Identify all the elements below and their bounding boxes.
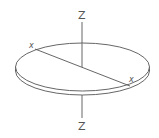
x-axis-left-label: x bbox=[28, 41, 34, 50]
z-axis-bottom-label: Z bbox=[78, 120, 86, 133]
disc-axis-diagram: Z Z x x bbox=[0, 0, 159, 138]
x-axis-right-label: x bbox=[128, 75, 134, 84]
z-axis-top-label: Z bbox=[78, 9, 86, 22]
